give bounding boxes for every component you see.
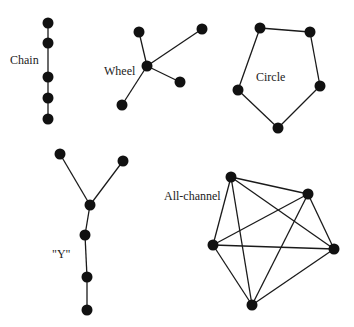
edge [310, 32, 320, 86]
node [117, 100, 128, 111]
edge [278, 86, 320, 128]
edge [308, 194, 334, 249]
edge [213, 245, 252, 305]
label-all-channel: All-channel [164, 189, 221, 203]
node [247, 300, 258, 311]
edge [60, 154, 90, 205]
node [303, 189, 314, 200]
edge [213, 194, 308, 245]
node [315, 81, 326, 92]
edge [213, 177, 231, 245]
node [82, 305, 93, 316]
edge [213, 245, 334, 249]
network-all-channel: All-channel [164, 172, 340, 311]
node [329, 244, 340, 255]
label-y: "Y" [52, 247, 71, 261]
edge [238, 90, 278, 128]
node [273, 123, 284, 134]
label-chain: Chain [10, 53, 39, 67]
node [255, 23, 266, 34]
edge [260, 28, 310, 32]
node [175, 77, 186, 88]
edge [90, 161, 123, 205]
node [134, 27, 145, 38]
network-chain: Chain [10, 18, 54, 125]
network-circle: Circle [233, 23, 326, 134]
node [142, 61, 153, 72]
edge [147, 66, 180, 82]
edge [231, 177, 252, 305]
edge [252, 249, 334, 305]
node [82, 272, 93, 283]
node [80, 230, 91, 241]
network-wheel: Wheel [104, 24, 208, 111]
node [43, 18, 54, 29]
label-wheel: Wheel [104, 64, 136, 78]
node [226, 172, 237, 183]
edge [147, 29, 202, 66]
label-circle: Circle [256, 70, 285, 84]
communication-networks-diagram: Chain Wheel Circle "Y" All-channel [0, 0, 354, 327]
node [85, 200, 96, 211]
node [305, 27, 316, 38]
node [43, 38, 54, 49]
node [43, 114, 54, 125]
node [43, 72, 54, 83]
node [43, 93, 54, 104]
node [233, 85, 244, 96]
node [55, 149, 66, 160]
node [197, 24, 208, 35]
edge [85, 235, 87, 277]
network-y: "Y" [52, 149, 129, 316]
node [118, 156, 129, 167]
node [208, 240, 219, 251]
